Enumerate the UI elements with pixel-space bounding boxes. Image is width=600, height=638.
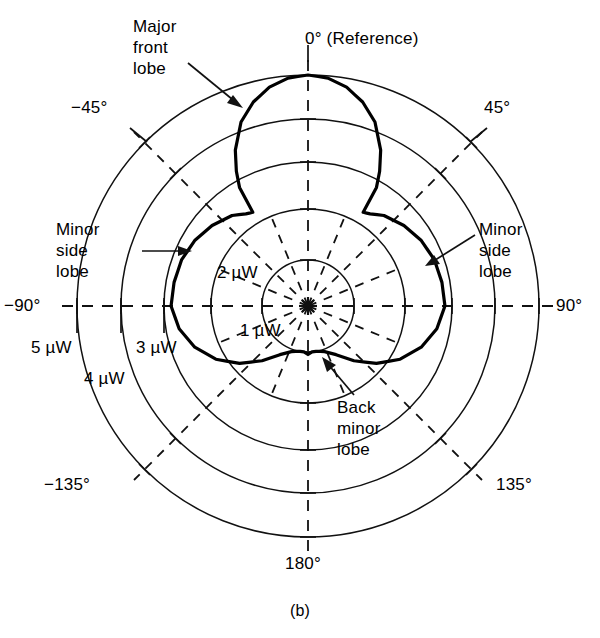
- ring-label-1uw: 1 µW: [240, 320, 281, 341]
- leader-major-front-lobe: [188, 63, 238, 104]
- annotation-back-minor-lobe: Back minor lobe: [337, 397, 381, 460]
- ring-label-4uw: 4 µW: [84, 368, 125, 389]
- leader-m45deg: [130, 128, 147, 142]
- spoke-135: [308, 306, 482, 480]
- polar-radiation-pattern-figure: 0° (Reference) 45° 90° 135° 180° −45° −9…: [0, 0, 600, 638]
- spoke-45: [308, 132, 482, 306]
- annotation-major-front-lobe: Major front lobe: [133, 16, 177, 79]
- spoke-minus-135: [134, 306, 308, 480]
- figure-caption: (b): [0, 600, 600, 621]
- angle-label-0: 0° (Reference): [305, 28, 419, 49]
- ring-label-3uw: 3 µW: [136, 337, 177, 358]
- leader-45deg: [470, 128, 487, 142]
- angle-label-45: 45°: [484, 97, 510, 118]
- angle-label-135: 135°: [496, 474, 532, 495]
- leader-minor-side-lobe-right: [432, 235, 475, 262]
- annotation-minor-side-lobe-left: Minor side lobe: [56, 219, 100, 282]
- ring-label-2uw: 2 µW: [217, 262, 258, 283]
- angle-label-minus-135: −135°: [44, 474, 90, 495]
- angle-label-180: 180°: [285, 553, 321, 574]
- angle-label-90: 90°: [556, 295, 582, 316]
- polar-plot-svg: [0, 0, 600, 638]
- angle-label-minus-90: −90°: [4, 295, 40, 316]
- angle-label-minus-45: −45°: [71, 97, 107, 118]
- annotation-minor-side-lobe-right: Minor side lobe: [479, 219, 523, 282]
- ring-label-5uw: 5 µW: [31, 337, 72, 358]
